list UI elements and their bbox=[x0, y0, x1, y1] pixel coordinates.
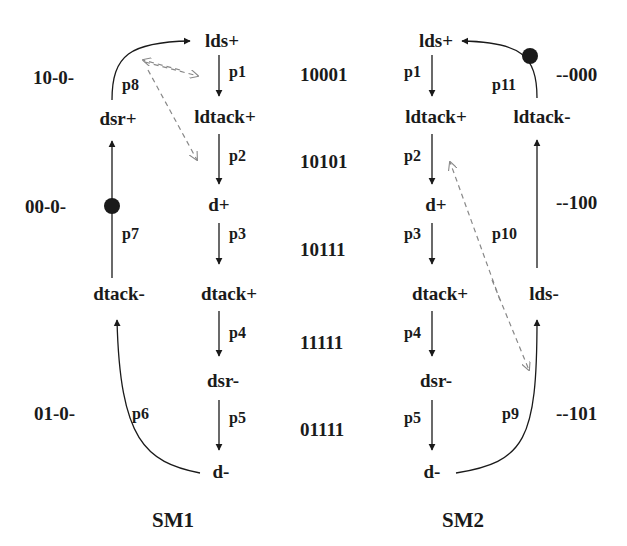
sm2-node-lds-plus: lds+ bbox=[419, 31, 453, 50]
sm2-place-p1: p1 bbox=[404, 64, 421, 80]
center-code-2: 10101 bbox=[300, 152, 348, 171]
sm2-place-p9: p9 bbox=[502, 406, 519, 422]
sm1-node-dsr-plus: dsr+ bbox=[99, 109, 136, 128]
sm2-node-lds-minus: lds- bbox=[529, 284, 559, 303]
sm1-state-code-2: 00-0- bbox=[25, 197, 66, 216]
sm1-node-ldtack-plus: ldtack+ bbox=[194, 107, 256, 126]
sm2-place-p2: p2 bbox=[404, 148, 421, 164]
sm2-place-p4: p4 bbox=[404, 325, 421, 341]
sm2-node-dsr-minus: dsr- bbox=[420, 371, 452, 390]
sm1-place-p6: p6 bbox=[132, 406, 149, 422]
sm2-dashed-arcs bbox=[450, 162, 529, 370]
sm2-place-p11: p11 bbox=[492, 77, 516, 93]
sm1-place-p8: p8 bbox=[122, 77, 139, 93]
sm2-node-dtack-plus: dtack+ bbox=[412, 284, 468, 303]
sm1-node-d-minus: d- bbox=[213, 462, 230, 481]
center-code-5: 01111 bbox=[300, 420, 344, 439]
center-code-4: 11111 bbox=[300, 333, 343, 352]
sm1-node-dtack-plus: dtack+ bbox=[201, 284, 257, 303]
sm1-arc-p6 bbox=[117, 320, 200, 473]
sm1-dashed-arcs bbox=[143, 60, 198, 160]
sm2-place-p3: p3 bbox=[404, 226, 421, 242]
sm1-node-dsr-minus: dsr- bbox=[207, 371, 239, 390]
sm2-token-p11 bbox=[522, 48, 538, 64]
sm2-arc-p9 bbox=[456, 320, 537, 473]
sm2-place-p10: p10 bbox=[492, 226, 517, 242]
sm1-title: SM1 bbox=[152, 510, 194, 531]
sm1-node-d-plus: d+ bbox=[208, 195, 229, 214]
sm1-node-dtack-minus: dtack- bbox=[93, 284, 145, 303]
sm2-title: SM2 bbox=[442, 510, 484, 531]
sm2-node-d-plus: d+ bbox=[425, 195, 446, 214]
sm1-place-p7: p7 bbox=[122, 226, 139, 242]
sm1-token-p7 bbox=[104, 198, 120, 214]
sm2-node-d-minus: d- bbox=[424, 462, 441, 481]
sm1-place-p3: p3 bbox=[229, 226, 246, 242]
sm1-state-code-3: 01-0- bbox=[34, 404, 75, 423]
sm2-state-code-2: --100 bbox=[556, 193, 597, 212]
center-code-3: 10111 bbox=[300, 240, 345, 259]
sm2-node-ldtack-plus: ldtack+ bbox=[405, 107, 467, 126]
sm1-place-p5: p5 bbox=[229, 410, 246, 426]
sm1-place-p1: p1 bbox=[229, 64, 246, 80]
sm1-place-p2: p2 bbox=[229, 148, 246, 164]
center-code-1: 10001 bbox=[300, 65, 348, 84]
sm2-state-code-1: --000 bbox=[556, 65, 597, 84]
sm2-state-code-3: --101 bbox=[556, 404, 597, 423]
sm1-state-code-1: 10-0- bbox=[33, 68, 74, 87]
sm2-place-p5: p5 bbox=[404, 410, 421, 426]
sm1-place-p4: p4 bbox=[229, 325, 246, 341]
sm2-node-ldtack-minus: ldtack- bbox=[514, 107, 571, 126]
sm1-node-lds-plus: lds+ bbox=[205, 31, 239, 50]
